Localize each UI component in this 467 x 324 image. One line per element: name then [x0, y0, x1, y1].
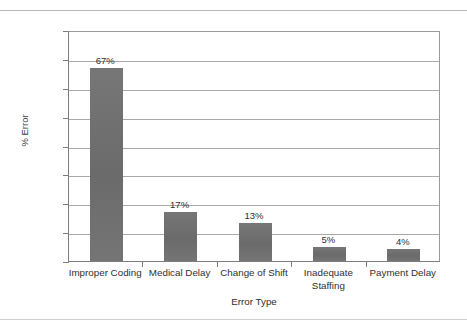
bar[interactable] [313, 247, 346, 261]
plot-area [68, 31, 440, 262]
x-axis-title: Error Type [68, 296, 440, 307]
x-axis-category-label: Payment Delay [359, 267, 447, 280]
gridline [69, 205, 439, 206]
bar-value-label: 5% [298, 234, 358, 245]
bar[interactable] [90, 68, 123, 261]
bar-value-label: 4% [373, 236, 433, 247]
bar[interactable] [387, 249, 420, 261]
bar[interactable] [164, 212, 197, 261]
gridline [69, 90, 439, 91]
bar-value-label: 17% [150, 199, 210, 210]
bar[interactable] [239, 223, 272, 261]
bar-value-label: 13% [224, 210, 284, 221]
bar-chart-error-type: % Error 0%10%20%30%40%50%60%70%80% 67%17… [0, 0, 467, 324]
bar-value-label: 67% [75, 55, 135, 66]
gridline [69, 119, 439, 120]
y-axis-tick-mark [63, 262, 69, 263]
y-axis-title: % Error [19, 101, 30, 161]
gridline [69, 148, 439, 149]
gridline [69, 176, 439, 177]
